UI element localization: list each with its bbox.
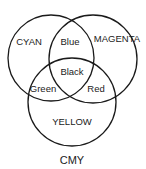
cyan-label: CYAN — [16, 36, 42, 47]
red-intersection-label: Red — [87, 83, 104, 94]
black-intersection-label: Black — [60, 66, 83, 77]
green-intersection-label: Green — [30, 83, 56, 94]
cmy-venn-diagram: CYAN MAGENTA YELLOW Blue Green Red Black… — [0, 0, 146, 169]
blue-intersection-label: Blue — [60, 36, 79, 47]
yellow-label: YELLOW — [52, 116, 92, 127]
magenta-label: MAGENTA — [94, 33, 141, 44]
diagram-title: CMY — [60, 154, 85, 166]
